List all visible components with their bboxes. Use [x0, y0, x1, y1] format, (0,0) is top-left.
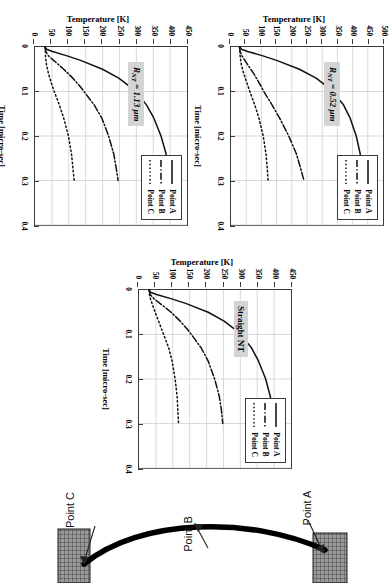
x-tick-mark: [230, 226, 235, 227]
nanotube-diagram: Point C Point B Point A: [0, 470, 392, 583]
y-tick-label: 150: [81, 26, 90, 37]
x-tick-mark: [230, 91, 235, 92]
y-tick-mark: [352, 39, 353, 44]
x-tick-label: 0.2: [124, 374, 133, 383]
y-tick-label: 300: [318, 26, 327, 37]
y-tick-label: 250: [219, 269, 228, 280]
figure-panel: 050100150200250300350400450 00.10.20.30.…: [0, 0, 392, 583]
y-tick-label: 450: [364, 26, 373, 37]
badge-value: = 0.52 μm: [328, 82, 338, 122]
y-tick-mark: [84, 39, 85, 44]
legend-label: Point C: [146, 189, 155, 214]
legend-key-dotted: [343, 159, 351, 185]
legend-label: Point A: [168, 189, 177, 213]
legend-key-dotted: [251, 402, 259, 428]
y-tick-mark: [306, 39, 307, 44]
y-tick-label: 0: [226, 33, 235, 37]
y-tick-mark: [50, 39, 51, 44]
nanotube-arc: [84, 527, 325, 564]
x-tick-mark: [138, 289, 143, 290]
series-line-point-c: [240, 47, 269, 181]
y-tick-mark: [137, 282, 138, 287]
y-tick-label: 450: [288, 269, 297, 280]
y-tick-mark: [171, 282, 172, 287]
y-tick-label: 400: [166, 26, 175, 37]
y-tick-mark: [154, 282, 155, 287]
y-axis-title: Temperature [K]: [67, 14, 129, 24]
legend-item-point-a: Point A: [167, 159, 178, 214]
y-tick-label: 200: [98, 26, 107, 37]
x-tick-mark: [138, 424, 143, 425]
x-tick-label: 0.3: [20, 176, 29, 185]
x-axis-title: Time [micro-sec]: [0, 46, 7, 226]
y-tick-mark: [321, 39, 322, 44]
y-tick-label: 250: [303, 26, 312, 37]
x-tick-label: 0.2: [216, 131, 225, 140]
y-tick-mark: [187, 39, 188, 44]
legend-label: Point B: [157, 189, 166, 213]
chart-rnt-052-wrapper: 050100150200250300350400450500 00.10.20.…: [196, 0, 392, 240]
legend-label: Point A: [364, 189, 373, 213]
y-tick-mark: [260, 39, 261, 44]
y-tick-mark: [205, 282, 206, 287]
y-tick-mark: [240, 282, 241, 287]
x-tick-mark: [230, 136, 235, 137]
y-tick-mark: [229, 39, 230, 44]
y-tick-mark: [337, 39, 338, 44]
legend-key-dashdot: [354, 159, 362, 185]
x-tick-mark: [34, 226, 39, 227]
legend-straight-nt: Point A Point B Point C: [245, 398, 286, 463]
x-tick-label: 0.3: [124, 419, 133, 428]
y-tick-mark: [188, 282, 189, 287]
x-tick-mark: [138, 379, 143, 380]
y-axis-title: Temperature [K]: [263, 14, 325, 24]
y-tick-label: 500: [380, 26, 389, 37]
y-tick-label: 200: [202, 269, 211, 280]
legend-key-dotted: [147, 159, 155, 185]
y-tick-label: 50: [151, 272, 160, 279]
y-tick-label: 450: [184, 26, 193, 37]
y-tick-mark: [119, 39, 120, 44]
x-tick-mark: [230, 181, 235, 182]
legend-item-point-a: Point A: [271, 402, 282, 457]
x-tick-label: 0.1: [20, 86, 29, 95]
x-tick-label: 0.1: [216, 86, 225, 95]
legend-key-solid: [169, 159, 177, 185]
x-tick-mark: [34, 46, 39, 47]
y-tick-mark: [223, 282, 224, 287]
legend-item-point-b: Point B: [260, 402, 271, 457]
y-tick-label: 350: [333, 26, 342, 37]
y-tick-label: 150: [185, 269, 194, 280]
legend-item-point-a: Point A: [363, 159, 374, 214]
x-tick-label: 0: [216, 44, 225, 48]
legend-label: Point B: [261, 432, 270, 456]
case-badge-rnt-052: RNT = 0.52 μm: [324, 62, 340, 126]
x-tick-mark: [34, 91, 39, 92]
point-c-label: Point C: [64, 492, 76, 528]
x-tick-label: 0: [124, 287, 133, 291]
legend-item-point-c: Point C: [341, 159, 352, 214]
legend-key-solid: [365, 159, 373, 185]
y-tick-mark: [275, 39, 276, 44]
y-tick-label: 200: [287, 26, 296, 37]
y-tick-label: 0: [30, 33, 39, 37]
legend-item-point-b: Point B: [352, 159, 363, 214]
y-tick-mark: [291, 39, 292, 44]
x-axis-rnt-052: 00.10.20.30.4: [206, 46, 230, 226]
x-tick-label: 0.4: [216, 221, 225, 230]
y-tick-label: 350: [149, 26, 158, 37]
x-tick-label: 0.2: [20, 131, 29, 140]
y-tick-mark: [33, 39, 34, 44]
y-tick-mark: [368, 39, 369, 44]
y-tick-mark: [383, 39, 384, 44]
chart-rnt-113-wrapper: 050100150200250300350400450 00.10.20.30.…: [0, 0, 196, 240]
legend-label: Point C: [250, 432, 259, 457]
x-axis-straight-nt: 00.10.20.30.4: [114, 289, 138, 469]
y-tick-mark: [101, 39, 102, 44]
y-tick-mark: [136, 39, 137, 44]
badge-value: = 1.13 μm: [132, 82, 142, 122]
series-line-point-c: [45, 47, 74, 181]
chart-straight-nt: 050100150200250300350400450 00.10.20.30.…: [104, 243, 300, 483]
y-tick-label: 400: [270, 269, 279, 280]
badge-subscript: NT: [131, 73, 138, 82]
